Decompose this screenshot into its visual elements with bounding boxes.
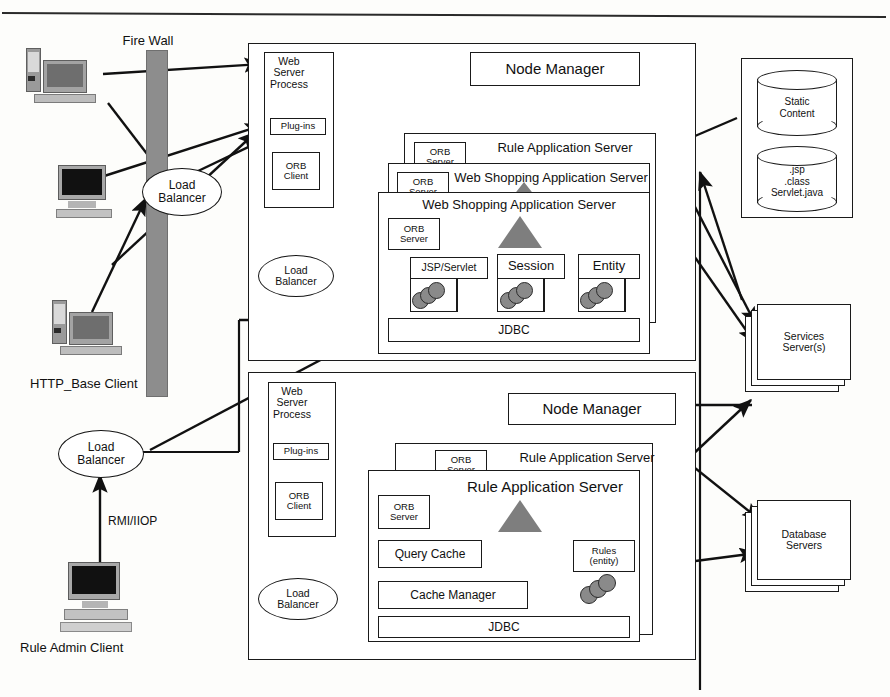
lower-orb-client-label: ORB Client: [275, 482, 323, 520]
lower-rules-entity-label: Rules (entity): [573, 540, 635, 572]
bean-icon: [516, 282, 533, 299]
code-artifacts-cylinder[interactable]: .jsp .class Servlet.java: [757, 146, 837, 212]
upper-plugins-label: Plug-ins: [270, 118, 326, 135]
upper-container-session-label: Session: [497, 254, 565, 279]
rule-admin-client-label: Rule Admin Client: [20, 638, 220, 658]
firewall-label: Fire Wall: [88, 30, 208, 52]
upper-web-server-process-label: Web Server Process: [270, 56, 334, 102]
rmi-iiop-label: RMI/IIOP: [108, 512, 198, 530]
load-balancer-frontend[interactable]: Load Balancer: [142, 168, 222, 216]
upper-app-server-front-title: Web Shopping Application Server: [388, 195, 650, 215]
code-artifacts-label: .jsp .class Servlet.java: [757, 164, 837, 199]
upper-session-pool-edge: [543, 278, 545, 312]
upper-node-manager-label: Node Manager: [470, 52, 640, 86]
architecture-diagram: Fire Wall HTTP_Base Client Rule Admin Cl…: [0, 0, 890, 697]
upper-inner-load-balancer[interactable]: Load Balancer: [258, 255, 334, 297]
services-servers-label: Services Server(s): [757, 304, 851, 380]
bean-icon: [596, 282, 613, 299]
static-content-cylinder[interactable]: Static Content: [757, 70, 837, 136]
bean-icon: [598, 574, 616, 592]
lower-plugins-label: Plug-ins: [273, 443, 329, 460]
firewall-bar: [146, 50, 168, 397]
upper-container-jsp-servlet-label: JSP/Servlet: [410, 257, 488, 279]
upper-app-server-middle-title: Web Shopping Application Server: [446, 168, 656, 188]
lower-app-server-front-orb-label: ORB Server: [378, 495, 430, 529]
database-servers-label: Database Servers: [757, 500, 851, 580]
upper-app-server-front-orb-label: ORB Server: [388, 218, 440, 250]
lower-app-server-front-title: Rule Application Server: [440, 476, 650, 498]
http-base-client-label: HTTP_Base Client: [30, 374, 210, 394]
lower-jdbc-label: JDBC: [378, 616, 630, 638]
lower-inner-load-balancer[interactable]: Load Balancer: [258, 578, 338, 620]
upper-entity-pool-edge: [624, 278, 626, 312]
lower-front-triangle-icon: [498, 500, 542, 532]
load-balancer-admin[interactable]: Load Balancer: [58, 430, 144, 478]
lower-node-manager-label: Node Manager: [508, 393, 676, 425]
upper-app-server-back-title: Rule Application Server: [470, 138, 660, 158]
page-top-rule: [2, 12, 886, 18]
upper-container-entity-label: Entity: [578, 254, 640, 279]
lower-web-server-process-label: Web Server Process: [273, 386, 337, 432]
lower-app-server-back-title: Rule Application Server: [492, 448, 682, 468]
lower-cache-manager-label: Cache Manager: [378, 581, 528, 609]
upper-jdbc-label: JDBC: [388, 318, 640, 342]
upper-front-triangle-icon: [498, 216, 542, 248]
upper-orb-client-label: ORB Client: [272, 152, 320, 190]
bean-icon: [428, 282, 445, 299]
static-content-label: Static Content: [757, 96, 837, 119]
lower-query-cache-label: Query Cache: [378, 540, 482, 568]
upper-jsp-servlet-pool-edge: [456, 278, 458, 312]
